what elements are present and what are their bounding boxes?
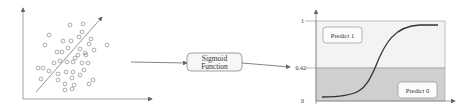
scatter-point xyxy=(65,60,69,64)
y-tick-1-label: 1 xyxy=(301,18,304,24)
scatter-point xyxy=(43,43,47,47)
scatter-point xyxy=(73,56,77,60)
scatter-point xyxy=(78,73,82,77)
scatter-point xyxy=(52,61,56,65)
scatter-point xyxy=(77,35,81,39)
scatter-point xyxy=(60,50,64,54)
scatter-point xyxy=(91,78,95,82)
scatter-point xyxy=(82,68,86,72)
scatter-point xyxy=(68,23,72,27)
scatter-point xyxy=(58,59,62,63)
predict-0-label: Predict 0 xyxy=(406,87,429,94)
scatter-point xyxy=(36,66,40,70)
input-arrow xyxy=(131,62,187,63)
scatter-point xyxy=(61,39,65,43)
scatter-point xyxy=(63,82,67,86)
scatter-point xyxy=(56,72,60,76)
diagram-canvas: Sigmoid Function 1 0.42 0 Predict 1 Pred… xyxy=(0,0,476,112)
scatter-point xyxy=(47,69,51,73)
scatter-point xyxy=(87,42,91,46)
scatter-point xyxy=(39,77,43,81)
predict-1-label: Predict 1 xyxy=(331,32,354,39)
y-tick-threshold-label: 0.42 xyxy=(296,65,307,71)
scatter-point xyxy=(89,37,93,41)
scatter-point xyxy=(66,46,70,50)
scatter-point xyxy=(80,30,84,34)
scatter-point xyxy=(72,83,76,87)
scatter-point xyxy=(86,61,90,65)
function-label-line2: Function xyxy=(201,62,228,71)
scatter-point xyxy=(41,66,45,70)
scatter-points xyxy=(36,22,109,92)
scatter-point xyxy=(87,82,91,86)
scatter-point xyxy=(71,70,75,74)
scatter-plot xyxy=(23,8,152,99)
scatter-point xyxy=(70,87,74,91)
scatter-point xyxy=(71,60,75,64)
scatter-point xyxy=(55,50,59,54)
scatter-point xyxy=(70,76,74,80)
sigmoid-plot: 1 0.42 0 Predict 1 Predict 0 xyxy=(296,10,456,104)
scatter-point xyxy=(76,53,80,57)
scatter-point xyxy=(105,43,109,47)
scatter-point xyxy=(81,22,85,26)
y-tick-0-label: 0 xyxy=(301,98,304,104)
scatter-point xyxy=(56,78,60,82)
output-arrow xyxy=(242,63,290,67)
scatter-point xyxy=(78,47,82,51)
regression-line xyxy=(36,17,102,92)
scatter-point xyxy=(63,88,67,92)
scatter-point xyxy=(80,61,84,65)
scatter-point xyxy=(47,33,51,37)
scatter-point xyxy=(64,70,68,74)
scatter-point xyxy=(69,39,73,43)
scatter-point xyxy=(92,48,96,52)
sigmoid-function-box: Sigmoid Function xyxy=(187,53,242,71)
